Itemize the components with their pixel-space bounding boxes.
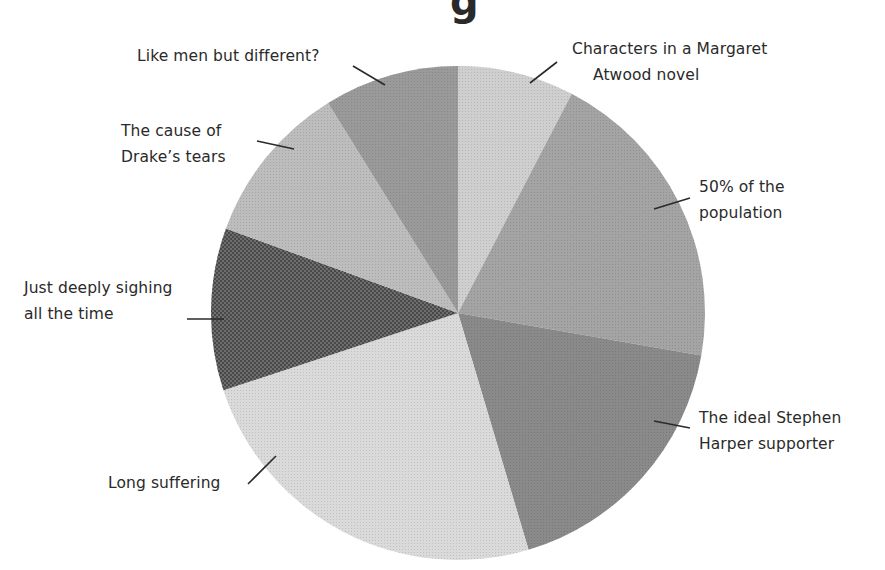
slice-label-line: Characters in a Margaret <box>572 36 767 62</box>
slice-label-line: Atwood novel <box>572 62 767 88</box>
slice-label-population: 50% of the population <box>699 174 785 226</box>
slice-label-suffering: Long suffering <box>108 470 221 496</box>
leader-line-likemen <box>353 66 385 85</box>
slice-label-line: population <box>699 200 785 226</box>
slice-label-line: Just deeply sighing <box>24 275 173 301</box>
slice-label-line: all the time <box>24 301 173 327</box>
slice-label-likemen: Like men but different? <box>137 43 319 69</box>
leader-line-atwood <box>530 62 557 83</box>
slice-label-harper: The ideal Stephen Harper supporter <box>699 405 841 457</box>
slice-label-atwood: Characters in a Margaret Atwood novel <box>572 36 767 88</box>
slice-label-line: Harper supporter <box>699 431 841 457</box>
slice-label-line: The ideal Stephen <box>699 405 841 431</box>
slice-label-drake: The cause of Drake’s tears <box>121 118 226 170</box>
slice-label-line: Long suffering <box>108 470 221 496</box>
slice-label-line: Like men but different? <box>137 43 319 69</box>
pie-slices <box>211 66 705 560</box>
slice-label-line: 50% of the <box>699 174 785 200</box>
slice-label-sighing: Just deeply sighing all the time <box>24 275 173 327</box>
slice-label-line: Drake’s tears <box>121 144 226 170</box>
slice-label-line: The cause of <box>121 118 226 144</box>
